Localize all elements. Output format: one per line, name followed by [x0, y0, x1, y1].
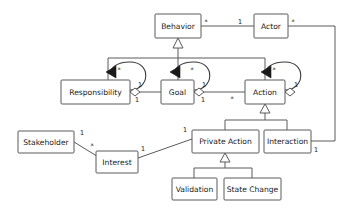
multiplicity-responsibility-bottom: 1: [135, 96, 139, 104]
class-box-behavior[interactable]: Behavior: [155, 14, 201, 38]
self-loop-arrowhead-action-icon: [261, 66, 271, 78]
multiplicity-action-loop: *: [272, 66, 275, 74]
self-loop-arrowhead-goal-icon: [170, 66, 180, 78]
class-box-action[interactable]: Action: [245, 80, 285, 104]
class-box-private-action[interactable]: Private Action: [192, 130, 259, 153]
class-box-interest[interactable]: Interest: [96, 151, 138, 173]
class-box-state-change[interactable]: State Change: [224, 178, 281, 200]
aggregation-diamond-goal-icon: [194, 88, 204, 96]
aggregation-diamond-action-icon: [285, 88, 295, 96]
multiplicity-goal-loop: *: [190, 66, 193, 74]
class-box-validation[interactable]: Validation: [172, 178, 217, 200]
class-box-actor[interactable]: Actor: [254, 14, 288, 38]
multiplicity-behavior-right: *: [204, 18, 207, 26]
class-box-interaction[interactable]: Interaction: [264, 130, 311, 153]
multiplicity-responsibility-loop: *: [117, 66, 120, 74]
multiplicity-actor-right: *: [291, 18, 294, 26]
multiplicity-goal-bottom: 1: [201, 96, 205, 104]
edge-actor-interaction: [288, 26, 335, 141]
class-box-goal[interactable]: Goal: [161, 80, 194, 104]
generalization-triangle-action-icon: [260, 104, 270, 113]
generalization-triangle-behavior-icon: [173, 38, 183, 48]
generalization-triangle-private-action-icon: [220, 153, 230, 162]
edge-interest-private-action: [138, 139, 192, 158]
multiplicity-actor-left: 1: [238, 18, 242, 26]
uml-class-diagram: Behavior Actor Responsibility Goal Actio…: [0, 0, 352, 211]
aggregation-diamond-responsibility-icon: [130, 88, 140, 96]
multiplicity-private-action-left: 1: [183, 126, 187, 134]
multiplicity-interest-star: *: [90, 142, 93, 150]
diagram-canvas: Behavior Actor Responsibility Goal Actio…: [0, 0, 352, 211]
class-box-stakeholder[interactable]: Stakeholder: [18, 131, 74, 153]
class-box-responsibility[interactable]: Responsibility: [61, 80, 130, 104]
multiplicity-interaction-right: 1: [314, 146, 318, 154]
multiplicity-action-bottom: *: [230, 95, 233, 103]
multiplicity-stakeholder: 1: [80, 129, 84, 137]
multiplicity-interest-right: 1: [141, 145, 145, 153]
